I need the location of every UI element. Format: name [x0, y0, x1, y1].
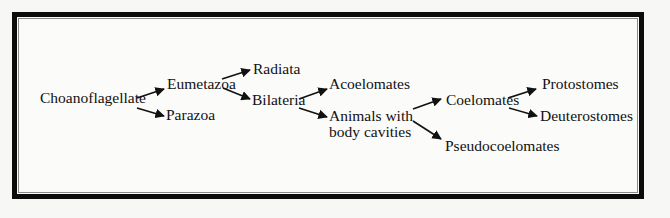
arrow-animals-coelomates	[413, 99, 441, 109]
node-animals-line1: Animals with	[329, 108, 413, 124]
arrow-choano-parazoa	[137, 108, 164, 116]
node-parazoa: Parazoa	[166, 107, 215, 123]
node-pseudocoelomates: Pseudocoelomates	[445, 138, 560, 154]
node-choanoflagellate: Choanoflagellate	[40, 90, 146, 106]
node-animals-line2: body cavities	[329, 124, 411, 140]
node-deuterostomes: Deuterostomes	[540, 108, 633, 124]
arrow-animals-pseudocoelomates	[413, 121, 441, 139]
node-acoelomates: Acoelomates	[329, 76, 410, 92]
arrow-coelomates-deuterostomes	[509, 108, 537, 116]
node-coelomates: Coelomates	[446, 92, 519, 108]
node-radiata: Radiata	[253, 61, 300, 77]
arrow-bilateria-animals	[299, 108, 327, 117]
node-eumetazoa: Eumetazoa	[167, 76, 236, 92]
node-bilateria: Bilateria	[252, 92, 305, 108]
node-protostomes: Protostomes	[542, 76, 619, 92]
